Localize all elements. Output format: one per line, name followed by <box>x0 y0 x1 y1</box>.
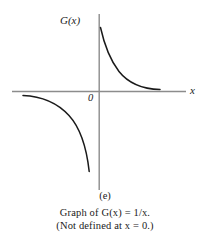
figure-caption: Graph of G(x) = 1/x. (Not defined at x =… <box>0 206 210 233</box>
curve-branch-negative <box>23 96 89 172</box>
figure-panel: G(x) x 0 (e) Graph of G(x) = 1/x. (Not d… <box>0 0 210 246</box>
curve-branch-positive <box>101 28 161 90</box>
y-axis-label: G(x) <box>60 15 80 26</box>
caption-line-2: (Not defined at x = 0.) <box>0 219 210 232</box>
x-axis-label: x <box>190 85 195 96</box>
origin-label: 0 <box>88 93 93 104</box>
caption-line-1: Graph of G(x) = 1/x. <box>0 206 210 219</box>
panel-letter: (e) <box>0 190 210 202</box>
